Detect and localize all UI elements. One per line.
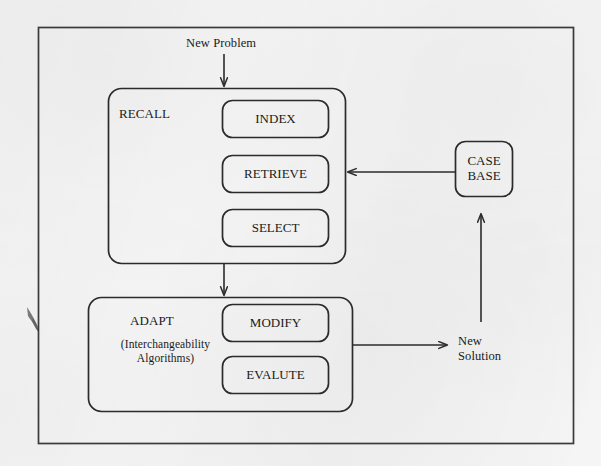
group-label-adapt: ADAPT bbox=[130, 313, 174, 328]
edge-label-new-solution: New Solution bbox=[458, 334, 501, 364]
node-label-modify[interactable]: MODIFY bbox=[222, 304, 329, 342]
group-sublabel-adapt: (Interchangeability Algorithms) bbox=[98, 338, 233, 365]
diagram-canvas: New Problem RECALL ADAPT (Interchangeabi… bbox=[0, 0, 601, 466]
edge-label-new-problem: New Problem bbox=[186, 36, 256, 51]
node-label-case-base[interactable]: CASE BASE bbox=[455, 141, 513, 197]
node-label-index[interactable]: INDEX bbox=[222, 100, 329, 138]
node-label-evalute[interactable]: EVALUTE bbox=[222, 356, 329, 394]
node-label-select[interactable]: SELECT bbox=[222, 209, 329, 247]
scan-smudge-artifact bbox=[27, 307, 39, 332]
group-label-recall: RECALL bbox=[119, 106, 170, 121]
node-label-retrieve[interactable]: RETRIEVE bbox=[222, 155, 329, 193]
